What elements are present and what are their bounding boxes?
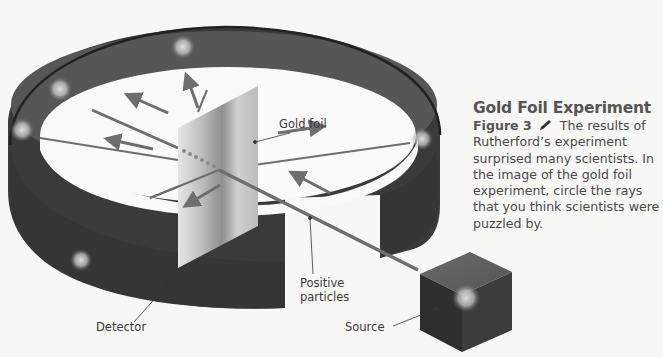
label-positive-particles: Positive particles [300, 276, 349, 304]
figure-label: Figure 3 [473, 118, 532, 133]
label-gold-foil: Gold foil [279, 117, 327, 131]
label-source: Source [345, 320, 385, 334]
source-cube [420, 252, 512, 352]
caption-title: Gold Foil Experiment [473, 99, 663, 117]
label-detector: Detector [96, 320, 146, 334]
pencil-icon [538, 119, 554, 131]
label-positive-particles-line1: Positive [300, 276, 349, 290]
figure-caption: Gold Foil Experiment Figure 3 The result… [473, 99, 663, 232]
label-positive-particles-line2: particles [300, 290, 349, 304]
caption-text: The results of Rutherford’s experiment s… [473, 118, 659, 231]
caption-body: Figure 3 The results of Rutherford’s exp… [473, 118, 663, 232]
